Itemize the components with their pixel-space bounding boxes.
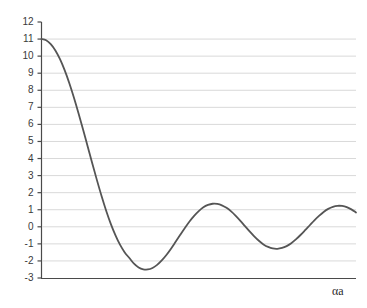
y-tick-label: 4: [0, 154, 34, 164]
y-tick-label: 3: [0, 171, 34, 181]
y-tick-label: 9: [0, 68, 34, 78]
y-tick-label: 11: [0, 34, 34, 44]
y-tick-label: -1: [0, 239, 34, 249]
y-tick-label: 1: [0, 205, 34, 215]
y-tick-label: 6: [0, 119, 34, 129]
y-tick-label: -2: [0, 256, 34, 266]
y-tick-label: 7: [0, 102, 34, 112]
damped-oscillation-plot: [0, 0, 367, 308]
y-tick-label: 8: [0, 85, 34, 95]
y-tick-label: 2: [0, 188, 34, 198]
chart-figure: -3-2-10123456789101112 αa: [0, 0, 367, 308]
y-tick-label: 5: [0, 136, 34, 146]
y-tick-label: 10: [0, 51, 34, 61]
y-tick-label: 12: [0, 17, 34, 27]
y-tick-label: -3: [0, 273, 34, 283]
y-tick-label: 0: [0, 222, 34, 232]
x-axis-label: αa: [332, 284, 344, 299]
